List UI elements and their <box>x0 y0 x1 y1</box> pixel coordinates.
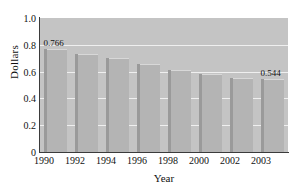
x-axis-title: Year <box>40 172 288 184</box>
bar[interactable] <box>168 70 191 152</box>
bar[interactable] <box>106 58 129 152</box>
bar-top-edge <box>47 49 67 50</box>
x-tick-label: 2003 <box>241 155 281 166</box>
bar[interactable] <box>261 79 284 152</box>
bar-top-edge <box>264 79 284 80</box>
y-tick-label: 0.4 <box>2 94 36 104</box>
bar-top-edge <box>171 70 191 71</box>
y-tick-label: 0.2 <box>2 121 36 131</box>
bar[interactable] <box>75 54 98 152</box>
y-tick-label: 0.6 <box>2 68 36 78</box>
bar-top-edge <box>233 78 253 79</box>
bar-top-edge <box>140 64 160 65</box>
y-tick-label: 0.8 <box>2 41 36 51</box>
gridline <box>40 45 288 46</box>
bar[interactable] <box>44 49 67 152</box>
data-label: 0.766 <box>44 39 64 48</box>
bar-top-edge <box>78 54 98 55</box>
bar-top-edge <box>109 58 129 59</box>
data-label: 0.544 <box>261 69 281 78</box>
bar[interactable] <box>199 74 222 152</box>
y-tick-label: 1.0 <box>2 14 36 24</box>
bar[interactable] <box>137 64 160 152</box>
x-axis-line <box>39 152 289 153</box>
plot-area <box>40 18 288 152</box>
bar-chart: Dollars 1.0 0.8 0.6 0.4 0.2 0 0.766 0.54… <box>0 0 304 192</box>
bar-top-edge <box>202 74 222 75</box>
bar[interactable] <box>230 78 253 152</box>
